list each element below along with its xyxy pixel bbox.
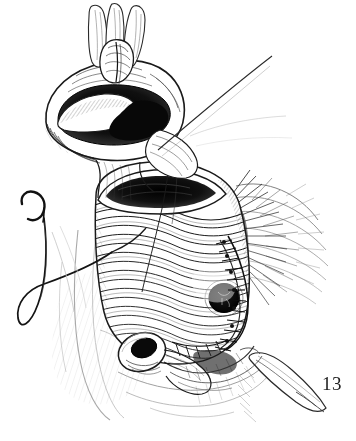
figure-number-label: 13 xyxy=(322,374,342,393)
figure-container: 13 xyxy=(0,0,356,441)
main-bowel-body xyxy=(92,162,252,365)
surgical-illustration xyxy=(0,0,356,441)
